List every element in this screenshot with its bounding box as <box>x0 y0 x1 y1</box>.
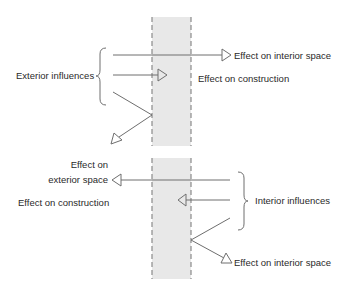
upper-effect-interior-space-label: Effect on interior space <box>234 50 331 61</box>
upper-absorbed-arrow-icon <box>113 69 167 81</box>
wall-influence-diagram: Exterior influences Effect on interior s… <box>0 0 352 292</box>
diagram-graphics <box>0 0 352 292</box>
lower-effect-interior-space-label: Effect on interior space <box>234 257 331 268</box>
exterior-influences-brace-icon <box>96 48 106 105</box>
lower-effect-construction-label: Effect on construction <box>18 197 109 208</box>
upper-reflected-arrow-icon <box>111 92 152 144</box>
lower-wall-section <box>152 158 191 279</box>
upper-effect-construction-label: Effect on construction <box>198 73 289 84</box>
lower-effect-exterior-space-label-line2: exterior space <box>40 174 108 185</box>
lower-wall-fill <box>152 158 191 279</box>
lower-effect-exterior-space-label-line1: Effect on <box>40 159 108 170</box>
lower-reflected-arrow-icon <box>191 218 232 263</box>
interior-influences-brace-icon <box>238 172 248 230</box>
interior-influences-label: Interior influences <box>255 195 330 206</box>
exterior-influences-label: Exterior influences <box>16 70 94 81</box>
lower-absorbed-arrow-icon <box>178 194 230 206</box>
